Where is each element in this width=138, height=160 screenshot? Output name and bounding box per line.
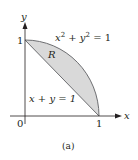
figure-caption: (a) — [62, 141, 74, 151]
y-axis-arrow-icon — [23, 22, 28, 29]
y-tick-label: 1 — [17, 35, 23, 46]
x-axis-label: x — [124, 110, 130, 121]
x-axis-arrow-icon — [115, 114, 122, 119]
region-label: R — [47, 49, 56, 60]
y-axis-label: y — [20, 11, 27, 22]
origin-label: 0 — [17, 118, 23, 129]
diagram: y x 1 0 1 x2 + y2 = 1 R x + y = 1 (a) — [0, 0, 138, 160]
line-equation-label: x + y = 1 — [29, 93, 76, 104]
circle-equation-label: x2 + y2 = 1 — [55, 31, 111, 43]
x-tick-label: 1 — [96, 118, 102, 129]
